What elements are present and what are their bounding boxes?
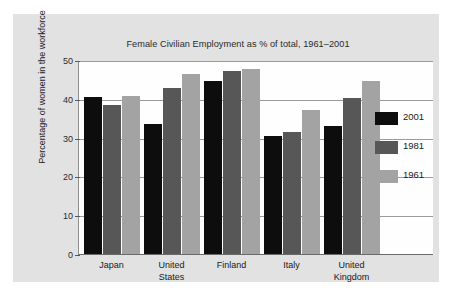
tickmark-10 [75, 216, 80, 217]
tickmark-20 [75, 177, 80, 178]
chart-screenshot: Female Civilian Employment as % of total… [0, 0, 452, 297]
y-tick-label-50: 50 [51, 56, 73, 66]
bar-italy-1981[interactable] [283, 132, 301, 254]
bar-group-united-states [144, 61, 201, 254]
legend: 200119811961 [375, 109, 431, 196]
tickmark-30 [75, 139, 80, 140]
bar-united-states-2001[interactable] [144, 124, 162, 254]
bar-group-japan [84, 61, 141, 254]
legend-item-2001[interactable]: 2001 [375, 109, 431, 130]
bar-finland-2001[interactable] [204, 81, 222, 254]
legend-item-1981[interactable]: 1981 [375, 138, 431, 159]
bar-italy-2001[interactable] [264, 136, 282, 254]
plot-area: 200119811961 [78, 61, 433, 255]
y-axis-tick-labels: 01020304050 [49, 61, 73, 255]
legend-swatch-1981 [375, 141, 398, 154]
tickmark-0 [75, 255, 80, 256]
legend-label-2001: 2001 [403, 111, 424, 122]
tickmark-50 [75, 61, 80, 62]
chart-title: Female Civilian Employment as % of total… [73, 39, 403, 49]
legend-label-1961: 1961 [403, 169, 424, 180]
tickmark-40 [75, 100, 80, 101]
x-axis-category-labels: JapanUnitedStatesFinlandItalyUnitedKingd… [78, 260, 433, 296]
bar-united-kingdom-2001[interactable] [324, 126, 342, 254]
legend-swatch-1961 [375, 170, 398, 183]
y-tick-label-10: 10 [51, 211, 73, 221]
x-label-line: United [317, 260, 387, 272]
bar-united-kingdom-1981[interactable] [343, 98, 361, 254]
y-tick-label-20: 20 [51, 172, 73, 182]
x-label-united-kingdom: UnitedKingdom [317, 260, 387, 283]
y-tick-label-30: 30 [51, 134, 73, 144]
y-tick-label-0: 0 [51, 250, 73, 260]
x-label-line: Kingdom [317, 272, 387, 284]
bar-united-states-1961[interactable] [182, 74, 200, 254]
bar-japan-1981[interactable] [103, 105, 121, 254]
bar-italy-1961[interactable] [302, 110, 320, 254]
bar-group-united-kingdom [324, 61, 381, 254]
bar-finland-1981[interactable] [223, 71, 241, 254]
legend-label-1981: 1981 [403, 140, 424, 151]
y-tick-label-40: 40 [51, 95, 73, 105]
figure-panel: Female Civilian Employment as % of total… [13, 14, 439, 282]
bar-japan-2001[interactable] [84, 97, 102, 254]
x-label-line: States [137, 272, 207, 284]
legend-item-1961[interactable]: 1961 [375, 167, 431, 188]
bar-japan-1961[interactable] [122, 96, 140, 254]
bar-group-finland [204, 61, 261, 254]
bar-finland-1961[interactable] [242, 69, 260, 254]
legend-swatch-2001 [375, 112, 398, 125]
y-axis-title: Percentage of women in the workforce [37, 0, 47, 185]
bar-group-italy [264, 61, 321, 254]
bar-united-states-1981[interactable] [163, 88, 181, 254]
